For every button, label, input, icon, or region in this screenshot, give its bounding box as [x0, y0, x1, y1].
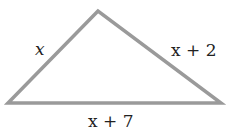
side-label-right: x + 2 [171, 40, 216, 60]
side-label-bottom: x + 7 [88, 111, 133, 129]
triangle-diagram: x x + 2 x + 7 [0, 0, 229, 129]
side-label-left: x [35, 39, 45, 59]
